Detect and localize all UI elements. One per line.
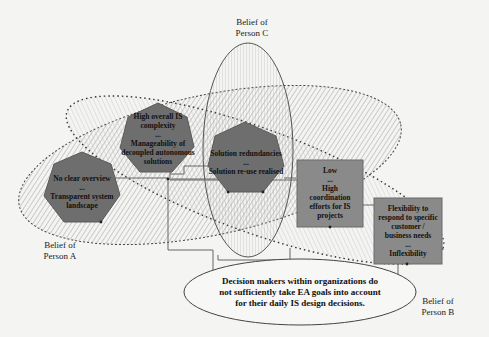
node-n5-line2: respond to specific bbox=[378, 213, 437, 222]
node-n1-line3: Manageability of bbox=[131, 139, 185, 148]
node-n3-line2: Solution re-use realised bbox=[209, 167, 284, 176]
node-n2-line1: No clear overview bbox=[53, 174, 110, 183]
node-n5-sep: ... bbox=[405, 240, 411, 249]
claim-line3: for their daily IS design decisions. bbox=[190, 298, 410, 309]
node-n1-text: High overall IS complexity ... Manageabi… bbox=[118, 110, 198, 168]
belief-b-label-line2: Person B bbox=[408, 307, 468, 318]
belief-a-label-line1: Belief of bbox=[30, 240, 90, 251]
node-n4-sep: ... bbox=[327, 175, 333, 184]
node-n1-sep: ... bbox=[155, 130, 161, 139]
belief-b-label-line1: Belief of bbox=[408, 296, 468, 307]
node-n5-line4: business needs bbox=[385, 231, 431, 240]
node-n3-text: Solution redundancies ... Solution re-us… bbox=[204, 146, 288, 178]
claim-line1: Decision makers within organizations do bbox=[190, 276, 410, 287]
node-n2-text: No clear overview ... Transparent system… bbox=[40, 170, 124, 214]
belief-a-label: Belief of Person A bbox=[30, 240, 90, 262]
node-n4-line1: Low bbox=[323, 166, 337, 175]
node-n1-line5: solutions bbox=[144, 157, 172, 166]
claim-line2: not sufficiently take EA goals into acco… bbox=[190, 287, 410, 298]
node-n4-line4: efforts for IS bbox=[309, 202, 350, 211]
claim-text: Decision makers within organizations do … bbox=[190, 266, 410, 318]
node-n4-line2: High bbox=[322, 184, 338, 193]
node-n3-sep: ... bbox=[243, 158, 249, 167]
node-n2-sep: ... bbox=[79, 183, 85, 192]
node-n5-text: Flexibility to respond to specific custo… bbox=[374, 200, 442, 262]
node-n4-line5: projects bbox=[317, 211, 343, 220]
belief-a-label-line2: Person A bbox=[30, 251, 90, 262]
node-n5-line3: customer / bbox=[391, 222, 424, 231]
node-n3-line1: Solution redundancies bbox=[210, 149, 281, 158]
node-n2-line2: Transparent system bbox=[50, 192, 113, 201]
node-n1-line4: decoupled autonomous bbox=[121, 148, 195, 157]
node-n5-line1: Flexibility to bbox=[388, 204, 429, 213]
node-n1-line1: High overall IS bbox=[134, 112, 183, 121]
belief-c-label: Belief of Person C bbox=[222, 17, 282, 39]
node-n4-text: Low ... High coordination efforts for IS… bbox=[297, 162, 363, 224]
node-n4-line3: coordination bbox=[310, 193, 351, 202]
belief-c-label-line2: Person C bbox=[222, 28, 282, 39]
belief-c-label-line1: Belief of bbox=[222, 17, 282, 28]
node-n5-line5: Inflexibility bbox=[389, 249, 427, 258]
node-n2-line3: landscape bbox=[66, 201, 98, 210]
belief-b-label: Belief of Person B bbox=[408, 296, 468, 318]
node-n1-line2: complexity bbox=[141, 121, 176, 130]
